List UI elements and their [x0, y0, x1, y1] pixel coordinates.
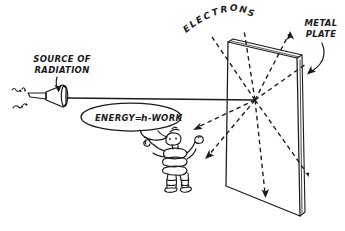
electrons-letter-5: T	[211, 6, 221, 18]
metal-plate-label-group: METAL PLATE	[305, 18, 338, 75]
electrons-label: E L E C T R O N S	[181, 3, 256, 35]
electrons-letter-7: O	[230, 3, 238, 13]
electron-ray-right-up	[255, 64, 306, 100]
cartoon-person	[144, 127, 204, 192]
electron-ray-up	[244, 30, 255, 100]
electron-ray-left	[196, 100, 255, 128]
equation-left: ENERGY=	[95, 113, 142, 123]
metal-plate-pointer-arrow	[312, 43, 324, 71]
metal-plate	[226, 39, 305, 216]
source-label-group: SOURCE OF RADIATION	[33, 54, 91, 93]
electrons-letter-6: R	[220, 4, 229, 15]
photoelectric-effect-diagram: SOURCE OF RADIATION E L E C T R O N S ME…	[0, 0, 345, 231]
equation-right: -WORK	[148, 113, 183, 123]
electron-ray-down-left	[208, 100, 255, 156]
equation-planck-constant: h	[141, 113, 148, 123]
metal-plate-label-line1: METAL	[305, 18, 338, 28]
source-label-line1: SOURCE OF	[33, 54, 91, 64]
electron-ray-up-right	[255, 34, 289, 100]
electron-ray-arrowheads	[193, 31, 309, 198]
electrons-letter-9: S	[246, 7, 255, 18]
electron-ray-down	[255, 100, 265, 193]
metal-plate-label-line2: PLATE	[306, 29, 337, 39]
source-label-line2: RADIATION	[34, 65, 89, 75]
diagram-canvas: SOURCE OF RADIATION E L E C T R O N S ME…	[0, 0, 345, 231]
energy-equation: ENERGY= h -WORK	[95, 113, 183, 123]
